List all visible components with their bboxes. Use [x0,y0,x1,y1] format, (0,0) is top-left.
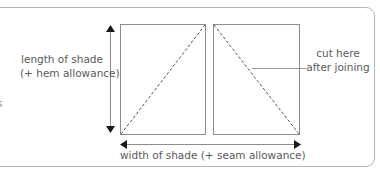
cut-label-line1: cut here [300,46,376,60]
arrow-down-icon [106,126,115,133]
clipped-left-text: s [0,97,2,109]
left-diagonal-dashed-line [121,25,205,134]
width-label: width of shade (+ seam allowance) [120,148,300,162]
right-fabric-panel [214,25,300,135]
length-label-line2: (+ hem allowance) [20,66,103,80]
cut-label-line2: after joining [300,60,376,74]
length-arrow [106,25,115,133]
right-diagonal-dashed-line [214,25,299,134]
arrow-up-icon [106,25,115,32]
length-label-line1: length of shade [20,52,103,66]
cut-here-label: cut here after joining [300,46,376,74]
length-label: length of shade (+ hem allowance) [20,52,103,80]
left-fabric-panel [121,25,206,135]
